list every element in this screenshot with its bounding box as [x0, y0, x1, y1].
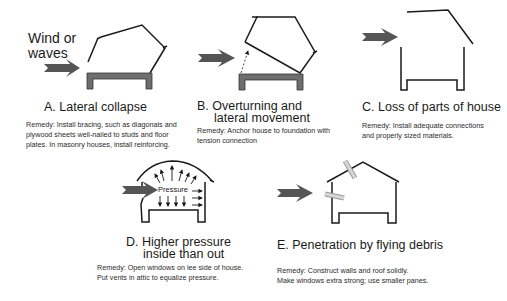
remedy-line: Put vents in attic to equalize pressure. [97, 273, 243, 283]
house-outline [327, 162, 399, 182]
remedy-line: and properly sized materials. [362, 131, 484, 141]
panel-c-illustration [362, 10, 473, 90]
wind-arrow-icon [122, 181, 158, 199]
panel-d-remedy: Remedy: Open windows on lee side of hous… [97, 263, 243, 283]
panel-b-remedy: Remedy: Anchor house to foundation with … [197, 126, 330, 146]
panel-c-title: C. Loss of parts of house [362, 101, 501, 113]
bulging-roof [137, 161, 212, 181]
panel-a-remedy: Remedy: Install bracing, such as diagona… [26, 120, 177, 150]
title-line: lateral movement [197, 112, 310, 124]
wind-label-line-2: waves [28, 46, 76, 61]
uplift-dashed-arrow [241, 51, 248, 73]
panel-e-remedy: Remedy: Construct walls and roof solidly… [277, 266, 428, 286]
title-line: E. Penetration by flying debris [277, 238, 443, 252]
wind-arrow-icon [44, 59, 80, 77]
wind-arrow-icon [277, 184, 313, 202]
wind-arrow-icon [198, 49, 235, 67]
flying-debris-icon [325, 161, 355, 198]
remedy-line: tension connection [197, 136, 330, 146]
remedy-line: Remedy: Install adequate connections [362, 121, 484, 131]
remedy-line: Remedy: Open windows on lee side of hous… [97, 263, 243, 273]
house-walls [401, 47, 464, 90]
collapsed-house-outline [88, 38, 98, 62]
title-line: C. Loss of parts of house [362, 100, 501, 114]
title-line: A. Lateral collapse [44, 100, 147, 114]
wind-or-waves-label: Wind or waves [28, 31, 76, 61]
wind-label-line-1: Wind or [28, 31, 76, 46]
panel-e-illustration [277, 161, 399, 223]
panel-e-title: E. Penetration by flying debris [277, 239, 443, 251]
tilted-house-outline [245, 17, 315, 73]
foundation [239, 74, 303, 90]
wind-arrow-icon [362, 28, 398, 46]
remedy-line: Make windows extra strong; use smaller p… [277, 276, 428, 286]
title-line: inside than out [126, 248, 231, 260]
panel-b-title: B. Overturning and lateral movement [197, 100, 310, 124]
panel-d-title: D. Higher pressure inside than out [126, 236, 231, 260]
pressure-label: Pressure [158, 185, 188, 194]
remedy-line: plywood sheets well-nailed to studs and … [26, 130, 177, 140]
detached-roof [407, 10, 473, 44]
panel-a-title: A. Lateral collapse [44, 101, 147, 113]
remedy-line: Remedy: Install bracing, such as diagona… [26, 120, 177, 130]
remedy-line: Remedy: Anchor house to foundation with [197, 126, 330, 136]
remedy-line: plates. In masonry houses, install reinf… [26, 140, 177, 150]
panel-c-remedy: Remedy: Install adequate connections and… [362, 121, 484, 141]
remedy-line: Remedy: Construct walls and roof solidly… [277, 266, 428, 276]
panel-d-illustration: Pressure [122, 161, 214, 222]
foundation [87, 73, 152, 89]
panel-b-illustration [198, 17, 317, 90]
